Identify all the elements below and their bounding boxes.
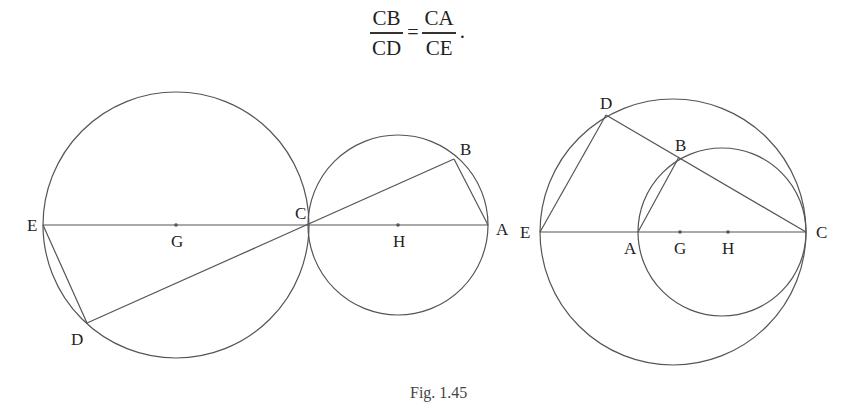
center-point-H	[396, 223, 400, 227]
point-label-C: C	[816, 223, 827, 242]
segment-BA	[454, 159, 488, 225]
figure-right: EAGHCDB	[520, 94, 827, 365]
segment-ED	[540, 115, 606, 232]
point-label-B: B	[460, 140, 471, 159]
figure-left: EGCHABD	[27, 92, 509, 358]
segment-DC	[606, 115, 806, 232]
center-point-G	[174, 223, 178, 227]
point-label-H: H	[393, 232, 405, 251]
point-label-E: E	[27, 216, 37, 235]
point-label-H: H	[722, 239, 734, 258]
point-label-D: D	[600, 94, 612, 113]
point-label-A: A	[496, 220, 509, 239]
segment-ED	[43, 225, 87, 323]
segment-AB	[638, 157, 679, 232]
point-label-C: C	[295, 204, 306, 223]
point-label-E: E	[520, 223, 530, 242]
center-point-G	[678, 230, 682, 234]
center-point-H	[726, 230, 730, 234]
figure-caption: Fig. 1.45	[410, 384, 467, 402]
point-label-G: G	[171, 232, 183, 251]
point-label-G: G	[674, 239, 686, 258]
point-label-B: B	[675, 136, 686, 155]
point-label-D: D	[71, 330, 83, 349]
point-label-A: A	[624, 239, 637, 258]
